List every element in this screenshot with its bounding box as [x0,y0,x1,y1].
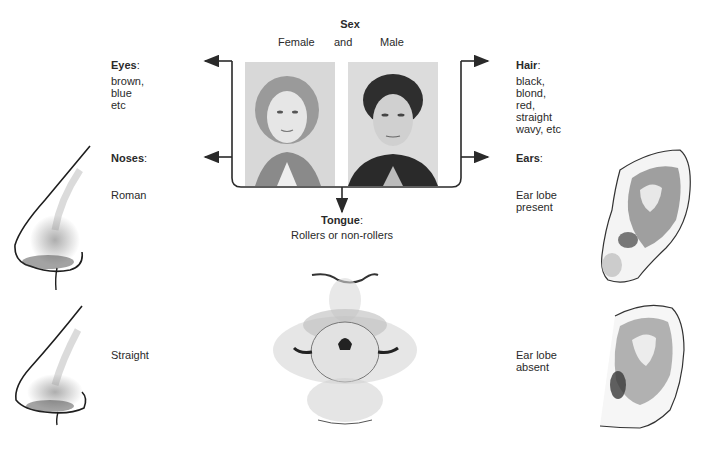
ears-heading: Ears: [516,152,543,164]
male-photo [348,62,438,186]
eyes-values: brown, blue etc [111,75,144,111]
ear-type-line: absent [516,361,557,373]
eyes-heading-text: Eyes [111,59,137,71]
eyes-heading: Eyes: [111,59,140,71]
hair-heading: Hair: [516,59,540,71]
hair-value: red, [516,99,561,111]
ear-type-line: Ear lobe [516,349,557,361]
ear-type-line: present [516,201,557,213]
tongue-heading: Tongue: [292,214,392,226]
hair-value: straight [516,111,561,123]
eyes-colon: : [137,59,140,71]
ear-type-present: Ear lobe present [516,189,557,213]
ear-type-absent: Ear lobe absent [516,349,557,373]
tongue-colon: : [360,214,363,226]
eyes-value: brown, [111,75,144,87]
hair-values: black, blond, red, straight wavy, etc [516,75,561,135]
hair-heading-text: Hair [516,59,537,71]
eyes-value: etc [111,99,144,111]
hair-value: wavy, etc [516,123,561,135]
nose-type-roman: Roman [111,189,146,201]
noses-colon: : [144,152,147,164]
hair-colon: : [537,59,540,71]
ears-colon: : [540,152,543,164]
eyes-value: blue [111,87,144,99]
ears-heading-text: Ears [516,152,540,164]
hair-value: black, [516,75,561,87]
noses-heading: Noses: [111,152,147,164]
hair-value: blond, [516,87,561,99]
ear-type-line: Ear lobe [516,189,557,201]
noses-heading-text: Noses [111,152,144,164]
female-photo [245,62,335,186]
tongue-subtitle: Rollers or non-rollers [262,229,422,241]
nose-type-straight: Straight [111,349,149,361]
tongue-heading-text: Tongue [321,214,360,226]
